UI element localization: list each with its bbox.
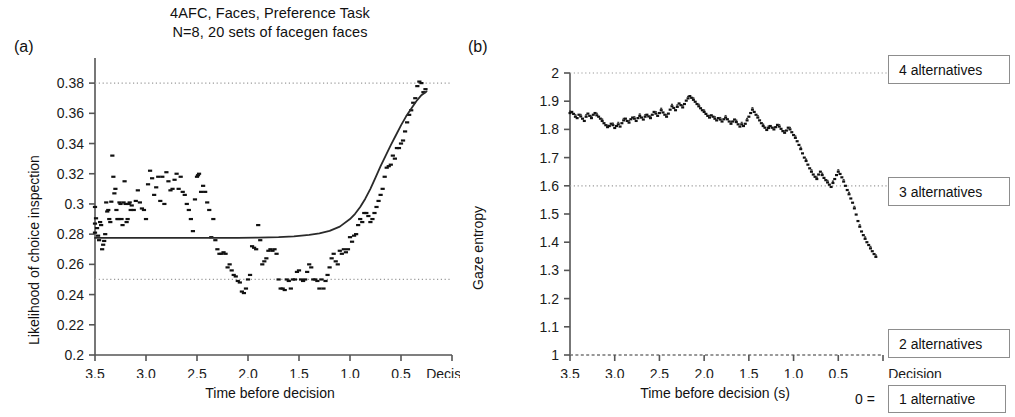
panel-b-data-point bbox=[751, 107, 753, 109]
panel-a-data-point bbox=[287, 280, 291, 282]
panel-b-y-tick-label: 1.1 bbox=[540, 319, 560, 335]
panel-a-data-point bbox=[350, 241, 354, 243]
panel-b-data-point bbox=[780, 128, 783, 130]
panel-b-data-point bbox=[665, 116, 668, 118]
panel-b-data-point bbox=[751, 109, 754, 111]
panel-b-data-point bbox=[669, 109, 672, 111]
panel-b-data-point bbox=[671, 104, 673, 106]
panel-a-x-tick-label: 3.0 bbox=[136, 366, 156, 378]
panel-b-data-point bbox=[635, 120, 638, 122]
panel-b-data-point bbox=[796, 140, 799, 142]
panel-b-data-point bbox=[747, 116, 750, 118]
panel-b-data-point bbox=[636, 117, 639, 119]
panel-b-data-point bbox=[642, 118, 645, 120]
panel-a-data-point bbox=[315, 280, 319, 282]
panel-b-data-point bbox=[613, 127, 616, 129]
panel-b-data-point bbox=[810, 169, 812, 171]
panel-a-y-tick-label: 0.34 bbox=[57, 136, 84, 152]
panel-a-data-point bbox=[95, 227, 99, 229]
panel-b-data-point bbox=[662, 111, 665, 113]
panel-a-data-point bbox=[381, 188, 385, 190]
panel-a-data-point bbox=[423, 88, 427, 90]
panel-a-data-point bbox=[125, 221, 129, 223]
panel-b-data-point bbox=[596, 113, 598, 115]
panel-a-data-point bbox=[338, 250, 342, 252]
panel-b-data-point bbox=[821, 172, 823, 174]
panel-b-data-point bbox=[738, 125, 741, 127]
panel-b-data-point bbox=[867, 244, 870, 246]
panel-b-data-point bbox=[801, 152, 804, 154]
panel-b-data-point bbox=[828, 184, 831, 186]
panel-b-data-point bbox=[731, 120, 734, 122]
panel-a-data-point bbox=[187, 209, 191, 211]
panel-a-x-tick-label: 0.5 bbox=[391, 366, 411, 378]
panel-a-data-point bbox=[150, 177, 154, 179]
panel-b-data-point bbox=[620, 122, 623, 124]
panel-a-data-point bbox=[391, 155, 395, 157]
panel-a-data-point bbox=[114, 209, 118, 211]
panel-b-data-point bbox=[765, 129, 768, 131]
figure-title-line-1: 4AFC, Faces, Preference Task bbox=[120, 4, 420, 23]
panel-a-data-point bbox=[415, 85, 419, 87]
panel-b-x-axis-label: Time before decision (s) bbox=[590, 385, 840, 401]
panel-b-y-tick-label: 1.6 bbox=[540, 178, 560, 194]
panel-a-data-point bbox=[126, 218, 130, 220]
panel-a-plot: 0.20.220.240.260.280.30.320.340.360.383.… bbox=[0, 48, 460, 378]
panel-b-data-point bbox=[833, 178, 836, 180]
panel-a-data-point bbox=[211, 218, 215, 220]
panel-b-data-point bbox=[783, 132, 786, 134]
panel-a-data-point bbox=[293, 278, 297, 280]
panel-b-data-point bbox=[855, 213, 858, 215]
panel-b-data-point bbox=[774, 126, 777, 128]
panel-b-data-point bbox=[660, 109, 663, 111]
panel-a-data-point bbox=[226, 266, 230, 268]
panel-b-y-tick-label: 1.7 bbox=[540, 150, 560, 166]
panel-a-data-point bbox=[334, 260, 338, 262]
panel-b-data-point bbox=[810, 171, 813, 173]
zero-equals-label: 0 = bbox=[855, 391, 875, 407]
panel-a-data-point bbox=[96, 235, 100, 237]
panel-b-data-point bbox=[865, 241, 868, 243]
panel-a-data-point bbox=[360, 221, 364, 223]
panel-b-data-point bbox=[753, 111, 756, 113]
panel-a-data-point bbox=[119, 218, 123, 220]
panel-b-data-point bbox=[837, 169, 839, 171]
panel-b-data-point bbox=[856, 220, 859, 222]
panel-a-data-point bbox=[142, 209, 146, 211]
panel-a-data-point bbox=[346, 248, 350, 250]
panel-b-data-point bbox=[715, 119, 718, 121]
panel-b-data-point bbox=[851, 202, 854, 204]
panel-b-y-tick-label: 2 bbox=[551, 65, 559, 81]
panel-b-data-point bbox=[714, 116, 716, 118]
panel-a-data-point bbox=[111, 176, 115, 178]
panel-b-data-point bbox=[601, 120, 604, 122]
figure-root: 4AFC, Faces, Preference Task N=8, 20 set… bbox=[0, 0, 1015, 417]
panel-a-data-point bbox=[93, 232, 97, 234]
panel-b-data-point bbox=[875, 254, 877, 256]
panel-b-data-point bbox=[848, 192, 850, 194]
panel-b-data-point bbox=[586, 113, 589, 115]
panel-a-data-point bbox=[277, 278, 281, 280]
panel-b-x-tick-label: 1.0 bbox=[784, 366, 804, 378]
panel-a-data-point bbox=[370, 218, 374, 220]
panel-a-data-point bbox=[97, 239, 101, 241]
panel-a-data-point bbox=[332, 253, 336, 255]
panel-b-data-point bbox=[685, 100, 688, 102]
panel-b-data-point bbox=[869, 246, 871, 248]
panel-b-data-point bbox=[744, 123, 747, 125]
panel-b-y-tick-label: 1.4 bbox=[540, 234, 560, 250]
panel-a-data-point bbox=[317, 287, 321, 289]
panel-a-data-point bbox=[262, 260, 266, 262]
panel-a-data-point bbox=[323, 280, 327, 282]
panel-a-data-point bbox=[154, 186, 158, 188]
panel-b-data-point bbox=[617, 122, 619, 124]
panel-b-data-point bbox=[602, 122, 605, 124]
panel-a-data-point bbox=[185, 203, 189, 205]
panel-b-data-point bbox=[858, 226, 861, 228]
panel-b-data-point bbox=[805, 158, 807, 160]
panel-a-data-point bbox=[305, 271, 309, 273]
panel-b-data-point bbox=[859, 224, 861, 226]
panel-b-data-point bbox=[667, 113, 670, 115]
panel-b-data-point bbox=[703, 111, 706, 113]
panel-a-data-point bbox=[258, 239, 262, 241]
